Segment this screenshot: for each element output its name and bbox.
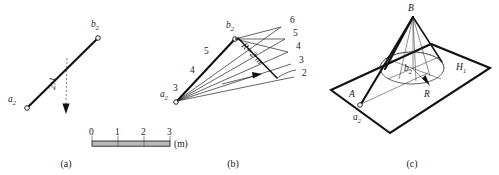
- panel-b-right-number-4: 4: [296, 41, 301, 51]
- panel-c-label-radius: R: [423, 89, 430, 99]
- panel-b-label-b2: b2: [226, 20, 235, 32]
- panel-b-left-number-4: 4: [190, 65, 195, 75]
- panel-a-slope-dashed-line: [66, 58, 67, 104]
- panel-b-left-number-3: 3: [173, 83, 178, 93]
- panel-c-label-b-apex: B: [408, 3, 414, 13]
- panel-c-line-a-to-b: [361, 17, 413, 104]
- technical-diagram-svg: a2 b2 2:1 0 1 2 3 (m) (a): [0, 0, 499, 175]
- scale-label-0: 0: [89, 127, 94, 137]
- scale-label-unit: (m): [174, 139, 188, 150]
- panel-c-point-a2-marker: [358, 103, 363, 108]
- panel-b-right-number-2: 2: [302, 68, 307, 78]
- panel-b-ray-4: [177, 52, 288, 101]
- panel-c-cone: [380, 17, 444, 84]
- caption-a: (a): [60, 158, 71, 170]
- panel-a-scale-bar: 0 1 2 3 (m): [89, 127, 188, 150]
- panel-b-sweep-curve: [277, 70, 296, 78]
- panel-a-point-a2-marker: [25, 106, 30, 111]
- panel-b-right-number-6: 6: [290, 15, 295, 25]
- panel-c-label-a2: a2: [353, 112, 362, 124]
- scale-label-3: 3: [167, 127, 172, 137]
- panel-b-left-number-5: 5: [204, 46, 209, 56]
- panel-c-radius-arrowhead: [422, 75, 430, 86]
- panel-b-arrow-head: [252, 72, 262, 79]
- panel-a-point-b2-marker: [96, 36, 101, 41]
- figure-container: a2 b2 2:1 0 1 2 3 (m) (a): [0, 0, 499, 175]
- panel-a-slope-arrowhead: [62, 104, 69, 115]
- caption-b: (b): [227, 158, 239, 170]
- panel-a-label-a2: a2: [8, 94, 17, 106]
- scale-label-1: 1: [115, 127, 120, 137]
- scale-bar-body: [92, 141, 170, 146]
- panel-a-line-ab: [28, 39, 97, 107]
- panel-a-slope-ratio-label: 2:1: [47, 77, 58, 90]
- panel-c-label-h1: H1: [455, 62, 466, 74]
- caption-c: (c): [406, 158, 417, 170]
- scale-label-2: 2: [141, 127, 146, 137]
- panel-c-label-a: A: [348, 89, 355, 99]
- panel-b-right-number-5: 5: [293, 28, 298, 38]
- panel-a-label-b2: b2: [91, 19, 100, 31]
- panel-b-top-chord-6: [235, 27, 281, 39]
- panel-b-arrow-shaft: [222, 76, 254, 84]
- panel-c-cone-generator-right: [413, 17, 442, 62]
- panel-b-direction-arrow: [222, 72, 262, 84]
- panel-b-right-number-3: 3: [299, 55, 304, 65]
- panel-b-label-a2: a2: [160, 89, 169, 101]
- panel-c-group: B A a2 b2 R H1 (c): [331, 3, 490, 170]
- panel-b-ray-6: [177, 27, 281, 101]
- panel-c-label-b2: b2: [404, 63, 413, 75]
